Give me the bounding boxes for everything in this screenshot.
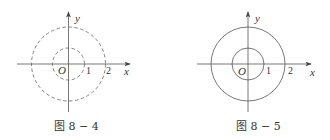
figure-caption-8-4: 图 8 − 4 — [54, 117, 99, 133]
figure-caption-8-5: 图 8 − 5 — [236, 117, 281, 133]
tick-label-1: 1 — [86, 65, 91, 76]
figure-8-4: y x O 1 2 — [17, 12, 130, 112]
x-axis-label: x — [309, 66, 315, 78]
figure-8-5: y x O 1 2 — [197, 12, 315, 112]
origin-label: O — [238, 65, 246, 77]
y-axis-label: y — [254, 12, 260, 24]
tick-label-2: 2 — [288, 65, 293, 76]
x-axis-label: x — [123, 65, 129, 77]
origin-label: O — [58, 64, 66, 76]
tick-label-2: 2 — [106, 65, 111, 76]
tick-label-1: 1 — [266, 65, 271, 76]
y-axis-label: y — [74, 12, 80, 24]
